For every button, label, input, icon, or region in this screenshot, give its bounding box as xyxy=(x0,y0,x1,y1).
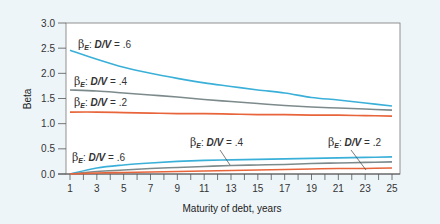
x-tick-label: 13 xyxy=(225,183,237,194)
x-tick-label: 17 xyxy=(279,183,291,194)
y-tick-label: 3.0 xyxy=(41,18,55,29)
y-tick-label: 1.0 xyxy=(41,118,55,129)
x-axis-title: Maturity of debt, years xyxy=(183,203,282,214)
x-tick-label: 3 xyxy=(94,183,100,194)
beta-vs-maturity-chart: 0.00.51.01.52.02.53.0 135791113151719212… xyxy=(0,0,440,224)
y-tick-label: 2.5 xyxy=(41,43,55,54)
x-tick-label: 9 xyxy=(175,183,181,194)
x-tick-label: 23 xyxy=(360,183,372,194)
x-tick-label: 19 xyxy=(306,183,318,194)
x-tick-label: 1 xyxy=(67,183,73,194)
y-tick-label: 0.5 xyxy=(41,143,55,154)
y-axis: 0.00.51.01.52.02.53.0 xyxy=(41,18,66,180)
x-tick-label: 11 xyxy=(199,183,210,194)
x-tick-label: 15 xyxy=(252,183,264,194)
x-tick-label: 5 xyxy=(121,183,127,194)
x-tick-label: 25 xyxy=(386,183,398,194)
chart-canvas: 0.00.51.01.52.02.53.0 135791113151719212… xyxy=(0,0,440,224)
y-axis-title: Beta xyxy=(22,88,33,109)
y-tick-label: 2.0 xyxy=(41,68,55,79)
x-axis: 135791113151719212325 xyxy=(58,174,400,194)
y-tick-label: 0.0 xyxy=(41,169,55,180)
x-tick-label: 7 xyxy=(148,183,154,194)
x-tick-label: 21 xyxy=(333,183,345,194)
y-tick-label: 1.5 xyxy=(41,93,55,104)
